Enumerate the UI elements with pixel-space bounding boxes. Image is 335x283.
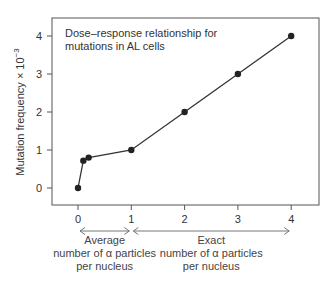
data-point — [85, 154, 91, 160]
data-point — [128, 147, 134, 153]
x-tick-label: 1 — [128, 213, 134, 225]
y-tick-label: 2 — [36, 106, 42, 118]
y-axis-label: Mutation frequency × 10−3 — [12, 48, 26, 176]
annotation-text: per nucleus — [183, 260, 240, 272]
annotation-text: Average — [84, 234, 125, 246]
x-tick-label: 3 — [235, 213, 241, 225]
y-tick-label: 1 — [36, 144, 42, 156]
x-tick-label: 4 — [288, 213, 294, 225]
y-axis-ticks: 01234 — [36, 30, 52, 194]
y-tick-label: 3 — [36, 68, 42, 80]
data-point — [235, 71, 241, 77]
annotation-text: number of α particles — [53, 247, 156, 259]
data-point — [288, 33, 294, 39]
data-point — [75, 185, 81, 191]
y-tick-label: 4 — [36, 30, 42, 42]
y-tick-label: 0 — [36, 182, 42, 194]
x-annotations: Averagenumber of α particlesper nucleusE… — [53, 228, 289, 273]
annotation-text: number of α particles — [160, 247, 263, 259]
dose-response-chart: Dose–response relationship for mutations… — [0, 0, 335, 283]
data-point — [181, 109, 187, 115]
annotation-text: Exact — [197, 234, 225, 246]
x-tick-label: 2 — [182, 213, 188, 225]
x-axis-ticks: 01234 — [75, 205, 294, 225]
y-axis-label-exponent: −3 — [12, 48, 21, 58]
annotation-text: per nucleus — [76, 260, 133, 272]
x-tick-label: 0 — [75, 213, 81, 225]
chart-title-line-2: mutations in AL cells — [65, 40, 165, 52]
chart-title-line-1: Dose–response relationship for — [65, 27, 218, 39]
